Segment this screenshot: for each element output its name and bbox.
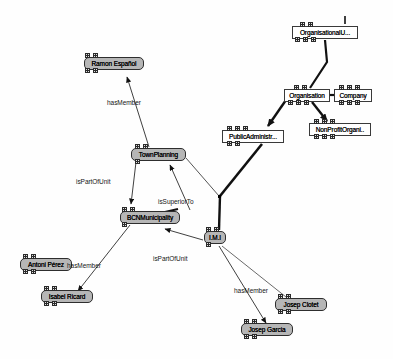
node-label: Ramon Español	[90, 59, 139, 68]
resize-handle[interactable]	[31, 269, 36, 274]
node-label: NonProfitOrgani..	[314, 125, 367, 134]
edge-layer	[0, 0, 393, 359]
resize-handle[interactable]	[130, 207, 135, 212]
edge-junction-point	[218, 195, 221, 198]
edge-imi-josepgarcia	[219, 246, 266, 323]
resize-handle[interactable]	[347, 85, 352, 90]
resize-handle[interactable]	[244, 319, 249, 324]
resize-handle[interactable]	[52, 286, 57, 291]
resize-handle[interactable]	[31, 254, 36, 259]
resize-handle[interactable]	[286, 294, 291, 299]
node-label: Organisation	[287, 91, 327, 100]
node-label: I.M.I	[207, 233, 223, 242]
resize-handle[interactable]	[227, 126, 232, 131]
edge-junction-townplanning	[186, 158, 219, 196]
edge-bcnmunicipality-isabelricard	[78, 225, 130, 291]
edge-label-issuperiorto[interactable]: isSuperiorTo	[158, 198, 194, 205]
resize-handle[interactable]	[93, 53, 98, 58]
resize-handle[interactable]	[355, 85, 360, 90]
resize-handle[interactable]	[52, 301, 57, 306]
resize-handle[interactable]	[300, 22, 305, 27]
resize-handle[interactable]	[85, 68, 90, 73]
node-bcnmunicipality[interactable]: BCNMunicipality	[120, 211, 180, 224]
node-organisationalunit[interactable]: OrganisationalU...	[292, 26, 358, 39]
resize-handle[interactable]	[311, 37, 316, 42]
resize-handle[interactable]	[347, 100, 352, 105]
resize-handle[interactable]	[243, 126, 248, 131]
resize-handle[interactable]	[314, 134, 319, 139]
resize-handle[interactable]	[303, 37, 308, 42]
resize-handle[interactable]	[85, 53, 90, 58]
resize-handle[interactable]	[330, 119, 335, 124]
resize-handle[interactable]	[235, 126, 240, 131]
resize-handle[interactable]	[252, 334, 257, 339]
resize-handle[interactable]	[294, 85, 299, 90]
node-label: BCNMunicipality	[125, 213, 175, 222]
resize-handle[interactable]	[23, 269, 28, 274]
resize-handle[interactable]	[339, 100, 344, 105]
resize-handle[interactable]	[44, 286, 49, 291]
resize-handle[interactable]	[122, 207, 127, 212]
resize-handle[interactable]	[322, 134, 327, 139]
diagram-canvas[interactable]: OrganisationalU... Organisation Company …	[0, 0, 393, 359]
node-label: Josep Garcia	[246, 325, 287, 334]
edge-label-ispartofunit-imi[interactable]: isPartOfUnit	[153, 255, 187, 262]
edge-publicadministr-junction	[220, 144, 262, 196]
edge-imi-bcnmunicipality	[165, 229, 203, 240]
resize-handle[interactable]	[304, 100, 309, 105]
edge-townplanning-ramonespanol	[127, 77, 149, 147]
resize-handle[interactable]	[288, 100, 293, 105]
resize-handle[interactable]	[235, 141, 240, 146]
resize-handle[interactable]	[286, 309, 291, 314]
resize-handle[interactable]	[206, 242, 211, 247]
resize-handle[interactable]	[252, 319, 257, 324]
node-label: TownPlanning	[137, 150, 180, 159]
resize-handle[interactable]	[143, 144, 148, 149]
resize-handle[interactable]	[296, 100, 301, 105]
edge-junction-imi	[219, 196, 220, 230]
node-label: PublicAdministr...	[227, 132, 279, 141]
node-label: OrganisationalU...	[298, 28, 352, 37]
edge-label-hasmember-bcn-isabel[interactable]: hasMember	[67, 262, 101, 269]
resize-handle[interactable]	[302, 85, 307, 90]
edge-label-hasmember-townplanning-ramon[interactable]: hasMember	[107, 99, 141, 106]
edge-organisation-publicadministr	[268, 100, 286, 126]
edge-label-ispartofunit-townplanning[interactable]: isPartOfUnit	[76, 178, 110, 185]
node-label: Josep Clotet	[282, 300, 321, 309]
node-label: Isabel Ricard	[47, 292, 88, 301]
resize-handle[interactable]	[322, 119, 327, 124]
resize-handle[interactable]	[330, 134, 335, 139]
resize-handle[interactable]	[278, 309, 283, 314]
resize-handle[interactable]	[355, 100, 360, 105]
edge-townplanning-bcnmunicipality	[131, 162, 136, 204]
resize-handle[interactable]	[214, 227, 219, 232]
resize-handle[interactable]	[206, 227, 211, 232]
resize-handle[interactable]	[339, 85, 344, 90]
resize-handle[interactable]	[23, 254, 28, 259]
resize-handle[interactable]	[122, 222, 127, 227]
resize-handle[interactable]	[278, 294, 283, 299]
resize-handle[interactable]	[308, 22, 313, 27]
resize-handle[interactable]	[295, 37, 300, 42]
resize-handle[interactable]	[314, 119, 319, 124]
node-label: Company	[337, 91, 368, 100]
edge-label-hasmember-imi-josep[interactable]: hasMember	[234, 287, 268, 294]
resize-handle[interactable]	[93, 68, 98, 73]
resize-handle[interactable]	[135, 159, 140, 164]
resize-handle[interactable]	[227, 141, 232, 146]
resize-handle[interactable]	[44, 301, 49, 306]
node-label: Antoni Pérez	[26, 260, 66, 269]
resize-handle[interactable]	[244, 334, 249, 339]
resize-handle[interactable]	[135, 144, 140, 149]
edge-organisationalunit-organisation	[310, 40, 327, 88]
